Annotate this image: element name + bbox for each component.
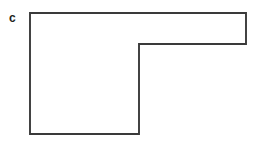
l-shape-diagram [0, 0, 255, 144]
figure-canvas: c [0, 0, 255, 144]
l-shaped-polygon-outline [30, 13, 246, 134]
